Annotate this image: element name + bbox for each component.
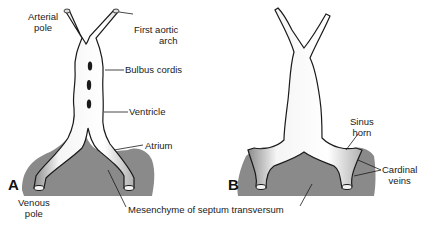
- label-line: veins: [382, 175, 417, 186]
- label-line: pole: [28, 22, 58, 33]
- label-mesenchyme: Mesenchyme of septum transversum: [128, 204, 284, 215]
- label-line: Sinus: [350, 116, 374, 127]
- bulbus-slit: [87, 80, 91, 90]
- label-atrium: Atrium: [145, 140, 172, 151]
- panel-label-a: A: [8, 176, 19, 193]
- bulbus-slit: [88, 62, 92, 71]
- label-venous-pole: Venous pole: [18, 197, 50, 219]
- label-line: First aortic: [134, 24, 178, 35]
- label-line: arch: [134, 35, 178, 46]
- label-first-aortic-arch: First aortic arch: [134, 24, 178, 46]
- label-sinus-horn: Sinus horn: [350, 116, 374, 138]
- label-bulbus-cordis: Bulbus cordis: [125, 64, 182, 75]
- label-arterial-pole: Arterial pole: [28, 11, 58, 33]
- bulbus-slit: [87, 100, 91, 109]
- panel-label-b: B: [228, 176, 239, 193]
- label-line: Arterial: [28, 11, 58, 22]
- label-cardinal-veins: Cardinal veins: [382, 164, 417, 186]
- label-line: pole: [18, 208, 50, 219]
- label-line: Venous: [18, 197, 50, 208]
- label-line: Cardinal: [382, 164, 417, 175]
- heart-tube-diagram: [0, 0, 433, 228]
- panel-b-drawing: [237, 8, 381, 206]
- label-ventricle: Ventricle: [129, 106, 165, 117]
- label-line: horn: [350, 127, 374, 138]
